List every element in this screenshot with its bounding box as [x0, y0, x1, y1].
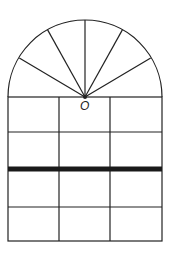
center-label: O — [80, 99, 89, 113]
thick-bar — [8, 167, 162, 172]
spoke — [48, 30, 86, 97]
spoke — [85, 58, 151, 97]
window-diagram — [0, 0, 171, 253]
spoke — [19, 58, 85, 97]
spoke — [85, 30, 123, 97]
